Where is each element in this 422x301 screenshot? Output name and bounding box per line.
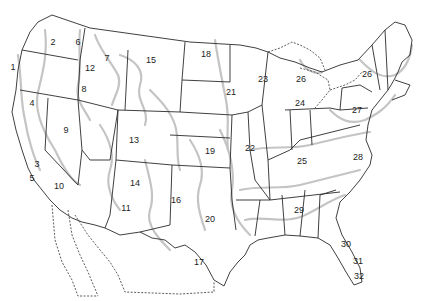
region-label-29: 29 <box>294 205 304 215</box>
region-label-17: 17 <box>194 257 204 267</box>
region-label-31: 31 <box>353 256 363 266</box>
region-label-7: 7 <box>104 53 109 63</box>
region-label-22: 22 <box>245 143 255 153</box>
region-label-15: 15 <box>146 55 156 65</box>
region-label-18: 18 <box>201 49 211 59</box>
region-label-11: 11 <box>121 203 130 213</box>
mexico-border <box>52 205 214 296</box>
region-label-27: 27 <box>352 105 362 115</box>
region-label-3: 3 <box>34 159 39 169</box>
region-label-26-newyork: 26 <box>362 69 372 79</box>
region-label-21: 21 <box>226 87 236 97</box>
region-label-19: 19 <box>205 146 215 156</box>
region-label-8: 8 <box>81 84 86 94</box>
us-map: 1 2 6 7 12 8 4 9 3 5 10 13 14 11 15 18 1… <box>0 0 422 301</box>
region-label-28: 28 <box>353 152 363 162</box>
region-label-6: 6 <box>75 37 80 47</box>
region-label-32: 32 <box>354 271 364 281</box>
region-label-16: 16 <box>171 195 181 205</box>
region-label-9: 9 <box>63 125 68 135</box>
region-label-14: 14 <box>130 178 140 188</box>
region-label-25: 25 <box>297 156 307 166</box>
region-label-13: 13 <box>129 135 139 145</box>
region-label-23: 23 <box>258 74 268 84</box>
region-label-10: 10 <box>54 181 64 191</box>
region-label-20: 20 <box>205 214 215 224</box>
region-label-26-michigan: 26 <box>296 74 306 84</box>
region-label-1: 1 <box>10 62 15 72</box>
region-label-30: 30 <box>341 239 351 249</box>
region-label-12: 12 <box>85 63 95 73</box>
region-label-2: 2 <box>50 37 55 47</box>
great-lakes-borders <box>268 42 362 108</box>
region-label-5: 5 <box>29 173 34 183</box>
region-label-24: 24 <box>295 98 305 108</box>
region-label-4: 4 <box>29 98 34 108</box>
